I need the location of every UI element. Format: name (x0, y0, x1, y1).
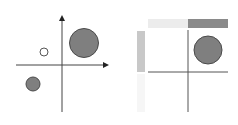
left-top-marginal-bar (137, 31, 145, 72)
top-left-marginal-bar (148, 19, 188, 28)
medium-filled-circle (26, 77, 40, 91)
top-right-marginal-bar (188, 19, 228, 28)
large-filled-circle (194, 36, 222, 64)
small-open-circle (40, 48, 48, 56)
diagram-canvas (0, 0, 238, 125)
marginal-quadrant-panel (137, 19, 228, 112)
large-filled-circle (70, 29, 99, 58)
scatter-quadrant-panel (16, 18, 106, 112)
left-bottom-marginal-bar (137, 74, 145, 112)
